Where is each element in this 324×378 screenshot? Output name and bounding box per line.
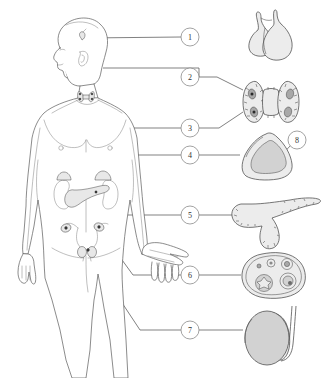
primordial-follicle <box>257 264 261 268</box>
testis-marker <box>87 249 90 252</box>
parathyroid-body-2 <box>79 98 81 100</box>
endocrine-system-figure: 1 2 3 4 5 6 <box>0 0 324 378</box>
parathyroid-body-4 <box>91 98 93 100</box>
ovary-left-marker <box>65 227 68 230</box>
callout-3[interactable]: 3 <box>181 119 199 137</box>
left-hand-outline <box>18 254 36 284</box>
human-body-figure <box>18 18 188 378</box>
right-hand-finger-1 <box>151 262 158 280</box>
testis-illustration <box>245 306 296 365</box>
pituitary-anterior-lobe <box>263 10 292 60</box>
ovary-outer-wall <box>242 253 305 299</box>
callout-7[interactable]: 7 <box>181 321 199 339</box>
pancreas-islet-marker <box>95 191 97 193</box>
callout-2[interactable]: 2 <box>181 68 199 86</box>
callout-5[interactable]: 5 <box>181 206 199 224</box>
callout-6-label: 6 <box>188 271 192 280</box>
ovary-illustration <box>242 253 305 299</box>
graafian-follicle-oocyte <box>288 281 292 285</box>
left-hand <box>18 254 36 284</box>
callout-1[interactable]: 1 <box>181 28 199 46</box>
pituitary-stalk-line <box>261 18 272 20</box>
callout-7-label: 7 <box>188 326 192 335</box>
testis-left-body <box>78 247 87 258</box>
callout-2-label: 2 <box>188 73 192 82</box>
graafian-follicle-antrum <box>283 276 293 286</box>
secondary-follicle-oocyte <box>284 261 289 266</box>
thyroid-parathyroid-illustration <box>243 81 299 122</box>
thyroid-isthmus-body <box>83 95 89 99</box>
figure-canvas: 1 2 3 4 5 6 <box>0 0 324 378</box>
parathyroid-nucleus-left-sup <box>251 93 254 96</box>
callout-4-label: 4 <box>188 151 192 160</box>
torso-outline <box>23 98 148 378</box>
callout-8[interactable]: 8 <box>288 131 306 149</box>
callout-8-label: 8 <box>295 136 299 145</box>
leader-line-2 <box>103 68 243 90</box>
ovary-right-marker <box>98 226 101 229</box>
pancreas-illustration <box>232 198 321 249</box>
thyroid-isthmus <box>263 89 280 116</box>
callout-3-label: 3 <box>188 124 192 133</box>
parathyroid-body-3 <box>91 93 93 95</box>
callout-1-label: 1 <box>188 33 192 42</box>
adrenal-gland-illustration <box>242 133 292 180</box>
testis-right-body <box>88 247 97 258</box>
pituitary-gland-illustration <box>249 10 292 60</box>
parathyroid-body-1 <box>79 93 81 95</box>
right-hand-finger-4 <box>172 265 179 280</box>
callout-4[interactable]: 4 <box>181 146 199 164</box>
callout-6[interactable]: 6 <box>181 266 199 284</box>
right-hand-finger-2 <box>158 263 165 282</box>
callout-5-label: 5 <box>188 211 192 220</box>
right-hand-finger-3 <box>165 264 172 282</box>
primary-follicle-oocyte <box>269 261 272 264</box>
parathyroid-nucleus-left-inf <box>253 111 256 114</box>
pancreas-body <box>232 198 321 249</box>
